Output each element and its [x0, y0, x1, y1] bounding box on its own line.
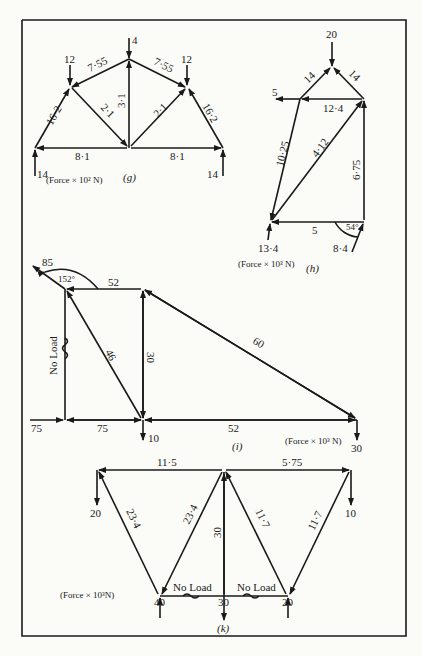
member-label: 6·75 — [350, 159, 362, 180]
load-label: 5 — [272, 86, 278, 98]
member-label: 8·1 — [170, 150, 185, 162]
truss-h: 20 5 14 14 12·4 10·25 4·12 6·75 5 54° 13… — [238, 28, 364, 275]
member-label: 46 — [103, 347, 119, 363]
load-label: 75 — [31, 422, 43, 434]
units-label: (Force × 10³ N) — [238, 259, 295, 269]
load-label: 10 — [345, 507, 357, 519]
load-label: 20 — [90, 507, 102, 519]
member-label: 52 — [228, 422, 239, 434]
member-label: 52 — [108, 276, 119, 288]
member-label: 60 — [251, 334, 267, 350]
units-label: (Force × 10³N) — [60, 590, 114, 600]
reaction-label: 20 — [282, 596, 294, 608]
member-label: 8·1 — [75, 150, 90, 162]
reaction-label: 8·4 — [333, 242, 348, 254]
load-label: 30 — [218, 596, 230, 608]
angle-label: 54° — [346, 222, 359, 232]
reaction-label: 40 — [154, 596, 166, 608]
reaction-label: 14 — [207, 168, 219, 180]
load-label: 4 — [132, 34, 138, 46]
member-label: 23·4 — [124, 507, 144, 531]
angle-label: 152° — [58, 274, 76, 284]
load-label: 10 — [148, 432, 160, 444]
units-label: (Force × 10² N) — [46, 175, 103, 185]
load-label: 12 — [181, 53, 192, 65]
member-label: 16·2 — [43, 104, 63, 127]
member-label: No Load — [173, 581, 212, 593]
truss-diagram-page: 4 12 12 7·55 7·55 16·2 16·2 2·1 2·1 3·1 … — [0, 0, 422, 656]
figure-caption: (h) — [306, 262, 319, 275]
member-label: 2·1 — [151, 100, 170, 119]
truss-g: 4 12 12 7·55 7·55 16·2 16·2 2·1 2·1 3·1 … — [35, 34, 223, 185]
member-label: 5·75 — [282, 456, 303, 468]
reaction-label: 13·4 — [258, 242, 279, 254]
truss-i: 85 152° 52 No Load 46 30 60 75 75 52 10 … — [30, 256, 363, 454]
member-label: 10·25 — [273, 139, 291, 167]
member-label: 12·4 — [323, 102, 344, 114]
member-label: 3·1 — [115, 93, 127, 108]
member-label: 11·7 — [253, 507, 273, 530]
figure-caption: (k) — [217, 622, 230, 635]
member-label: No Load — [47, 336, 59, 375]
load-label: 12 — [64, 53, 75, 65]
member-label: 30 — [211, 527, 223, 539]
figure-caption: (g) — [123, 171, 136, 184]
truss-k: 11·5 5·75 20 10 23·4 23·4 30 11·7 11·7 N… — [60, 456, 357, 635]
member-label: 11·5 — [157, 456, 177, 468]
member-label: 14 — [347, 67, 364, 84]
units-label: (Force × 10³ N) — [285, 436, 342, 446]
member-label: 30 — [145, 352, 157, 364]
load-label: 20 — [326, 28, 338, 40]
member-label: No Load — [237, 581, 276, 593]
load-label: 30 — [351, 442, 363, 454]
member-label: 75 — [97, 422, 109, 434]
member-label: 5 — [312, 224, 318, 236]
figure-caption: (i) — [232, 440, 243, 453]
load-label: 85 — [42, 256, 54, 268]
